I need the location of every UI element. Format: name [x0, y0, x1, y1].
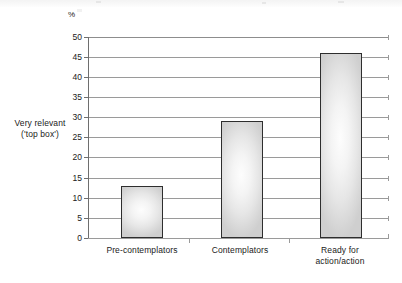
x-axis-line [88, 238, 389, 239]
y-tick-label-0: 0 [62, 234, 82, 242]
y-tick-label-20: 20 [62, 153, 82, 161]
gridline-end-tick-20 [388, 155, 389, 160]
gridline-end-tick-30 [388, 115, 389, 120]
x-axis-category-label-1-line-1: Pre-contemplators [92, 245, 192, 256]
x-axis-category-label-2-line-1: Contemplators [192, 245, 288, 256]
plot-area: 50 45 40 35 30 25 20 15 10 [0, 0, 402, 283]
y-tick-label-5: 5 [62, 214, 82, 222]
y-tick-label-30: 30 [62, 113, 82, 121]
x-axis-separator-tick-2 [289, 238, 290, 243]
gridline-end-tick-35 [388, 95, 389, 100]
y-tick-label-15: 15 [62, 174, 82, 182]
y-tick-label-45: 45 [62, 53, 82, 61]
x-axis-separator-tick-1 [189, 238, 190, 243]
chart-figure: % Very relevant ('top box') 50 45 40 35 … [0, 0, 402, 283]
gridline-end-tick-50 [388, 35, 389, 40]
y-tick-label-40: 40 [62, 73, 82, 81]
x-axis-category-label-1: Pre-contemplators [92, 245, 192, 256]
gridline-end-tick-45 [388, 55, 389, 60]
y-tick-label-25: 25 [62, 133, 82, 141]
bar-ready-for-action [320, 53, 362, 238]
gridline-end-tick-40 [388, 75, 389, 80]
x-axis-category-label-3: Ready for action/action [292, 245, 388, 267]
x-axis-end-tick [388, 234, 389, 239]
y-tick-label-35: 35 [62, 93, 82, 101]
bar-pre-contemplators [121, 186, 163, 238]
gridline-end-tick-15 [388, 176, 389, 181]
y-tick-label-10: 10 [62, 194, 82, 202]
x-axis-category-label-3-line-1: Ready for [292, 245, 388, 256]
y-tick-label-50: 50 [62, 33, 82, 41]
gridline-end-tick-25 [388, 135, 389, 140]
gridline-end-tick-5 [388, 216, 389, 221]
gridline-50 [89, 37, 388, 38]
x-axis-category-label-3-line-2: action/action [292, 256, 388, 267]
gridline-end-tick-10 [388, 196, 389, 201]
bar-contemplators [221, 121, 263, 238]
x-axis-category-label-2: Contemplators [192, 245, 288, 256]
y-axis-line [88, 37, 89, 239]
